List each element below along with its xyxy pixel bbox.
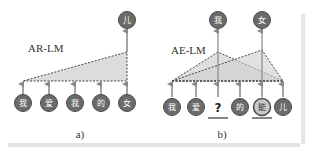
svg-text:能: 能 (258, 102, 266, 112)
svg-text:?: ? (215, 101, 222, 115)
token-node: 女 (119, 95, 136, 112)
input-arrows (172, 84, 283, 97)
panel-a-caption: a) (76, 128, 85, 141)
svg-text:儿: 儿 (279, 103, 287, 112)
diagram-canvas: AR-LM 我 爱 我 的 女 (0, 0, 309, 153)
panel-b: AE-LM 我 爱 ? 的 (164, 12, 292, 142)
svg-text:女: 女 (123, 98, 131, 108)
svg-text:的: 的 (236, 102, 244, 112)
panel-a: AR-LM 我 爱 我 的 女 (15, 12, 136, 142)
svg-text:爱: 爱 (192, 103, 200, 112)
panel-b-caption: b) (217, 128, 227, 141)
svg-text:爱: 爱 (45, 99, 53, 108)
token-node: 我 (15, 95, 32, 112)
svg-text:女: 女 (258, 15, 266, 25)
svg-text:我: 我 (168, 102, 176, 112)
token-node: 爱 (188, 99, 205, 116)
ar-lm-context-triangle (23, 52, 127, 81)
svg-text:的: 的 (97, 98, 105, 108)
svg-text:我: 我 (214, 15, 222, 25)
output-token-node: 女 (254, 12, 271, 29)
svg-text:我: 我 (19, 98, 27, 108)
token-node: 的 (232, 99, 249, 116)
token-node: 我 (164, 99, 181, 116)
svg-text:儿: 儿 (123, 16, 131, 25)
masked-token: ? (208, 101, 228, 118)
token-node: 儿 (275, 99, 292, 116)
svg-text:我: 我 (71, 98, 79, 108)
output-token-node: 儿 (119, 12, 136, 29)
ae-lm-label: AE-LM (171, 44, 206, 56)
replaced-token-node: 能 (252, 99, 272, 119)
token-node: 爱 (41, 95, 58, 112)
token-node: 的 (93, 95, 110, 112)
token-node: 我 (67, 95, 84, 112)
ar-lm-label: AR-LM (28, 42, 64, 54)
output-token-node: 我 (210, 12, 227, 29)
